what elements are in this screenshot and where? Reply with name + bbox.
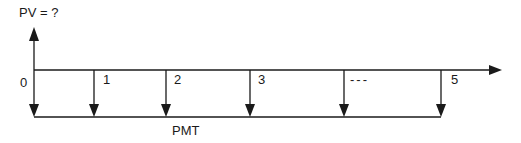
down-arrow-icon — [339, 104, 349, 117]
payment-arrow-3 — [245, 70, 255, 117]
down-arrow-icon — [89, 104, 99, 117]
payment-arrow-0 — [29, 70, 39, 117]
down-arrow-icon — [245, 104, 255, 117]
period-label-0: 0 — [20, 76, 27, 90]
period-label-3: 3 — [258, 73, 265, 87]
period-label-5: 5 — [451, 73, 458, 87]
period-label-ellipsis: --- — [350, 73, 369, 87]
period-label-1: 1 — [103, 73, 110, 87]
down-arrow-icon — [29, 104, 39, 117]
payment-arrow-5 — [436, 70, 446, 117]
pv-up-arrow-icon — [29, 27, 39, 41]
payment-arrow-1 — [89, 70, 99, 117]
payment-arrow-4 — [339, 70, 349, 117]
pv-label: PV = ? — [19, 6, 58, 20]
down-arrow-icon — [436, 104, 446, 117]
payment-arrow-2 — [161, 70, 171, 117]
pmt-label: PMT — [172, 124, 199, 138]
period-label-2: 2 — [174, 73, 181, 87]
down-arrow-icon — [161, 104, 171, 117]
timeline-right-arrow-icon — [489, 65, 502, 75]
